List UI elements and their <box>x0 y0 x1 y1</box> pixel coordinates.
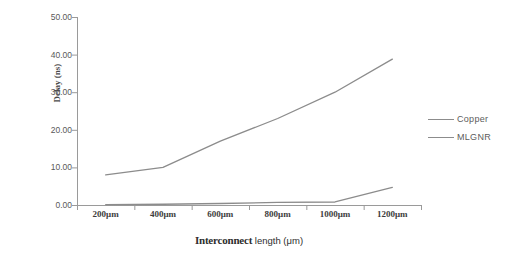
x-axis-tick-label: 400μm <box>134 209 191 219</box>
x-axis-title-bold: Interconnect <box>195 234 252 246</box>
chart-container: Delay (ns) 0.0010.0020.0030.0040.0050.00… <box>0 0 513 261</box>
legend-label: Copper <box>457 114 488 124</box>
chart-legend: CopperMLGNR <box>428 110 513 146</box>
legend-item-copper[interactable]: Copper <box>428 110 513 128</box>
legend-item-mlgnr[interactable]: MLGNR <box>428 128 513 146</box>
x-axis-tick-label: 1000μm <box>306 209 363 219</box>
x-axis-tick-label: 200μm <box>77 209 134 219</box>
x-axis-tick-label: 800μm <box>249 209 306 219</box>
series-line-mlgnr <box>106 187 393 204</box>
x-axis-tick-label: 600μm <box>192 209 249 219</box>
legend-label: MLGNR <box>457 132 491 142</box>
x-axis-tick-label: 1200μm <box>364 209 421 219</box>
legend-swatch-copper <box>428 119 454 120</box>
x-axis-title: Interconnect length (μm) <box>77 234 421 246</box>
x-axis-title-plain: length (μm) <box>252 235 303 246</box>
series-line-copper <box>106 59 393 175</box>
legend-swatch-mlgnr <box>428 137 454 138</box>
